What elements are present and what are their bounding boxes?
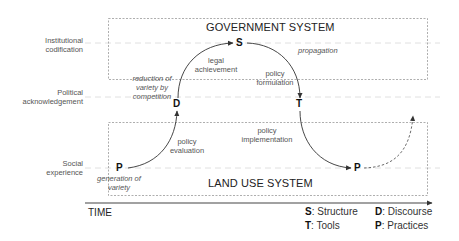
label-line: policy: [253, 69, 297, 78]
level-label-political: Political acknowledgement: [8, 88, 83, 106]
annotation-propagation: propagation: [298, 46, 338, 55]
level-label-line: Social: [10, 159, 83, 168]
legend-key: P: [375, 220, 382, 231]
legend-item-tools: T: Tools: [305, 220, 340, 231]
level-label-line: experience: [10, 168, 83, 177]
time-axis-label: TIME: [88, 207, 112, 218]
node-structure: S: [236, 37, 243, 48]
level-label-line: codification: [10, 45, 83, 54]
label-line: policy: [240, 126, 294, 135]
government-system-title: GOVERNMENT SYSTEM: [206, 21, 335, 33]
legend-text: : Tools: [311, 220, 340, 231]
level-label-line: Political: [8, 88, 83, 97]
label-line: policy: [163, 137, 211, 146]
label-line: formulation: [253, 78, 297, 87]
level-label-line: Institutional: [10, 36, 83, 45]
arrow-t-to-p: [300, 111, 351, 168]
legend-key: S: [305, 206, 312, 217]
label-line: evaluation: [163, 146, 211, 155]
annotation-generation-of-variety: generation of variety: [94, 174, 144, 192]
legend-item-practices: P: Practices: [375, 220, 428, 231]
label-legal-achievement: legal achievement: [192, 56, 240, 74]
label-line: achievement: [192, 65, 240, 74]
level-label-institutional: Institutional codification: [10, 36, 83, 54]
annotation-line: generation of: [94, 174, 144, 183]
annotation-reduction-of-variety: reduction of variety by competition: [128, 74, 176, 101]
annotation-line: variety: [94, 183, 144, 192]
annotation-line: variety by: [128, 83, 176, 92]
level-label-social: Social experience: [10, 159, 83, 177]
label-policy-evaluation: policy evaluation: [163, 137, 211, 155]
label-policy-formulation: policy formulation: [253, 69, 297, 87]
node-tools: T: [296, 98, 302, 109]
label-line: implementation: [240, 135, 294, 144]
arrow-p-dashed-future: [364, 116, 413, 168]
annotation-line: competition: [128, 92, 176, 101]
node-practices-end: P: [354, 162, 361, 173]
annotation-line: reduction of: [128, 74, 176, 83]
legend-text: : Structure: [312, 206, 358, 217]
legend-item-discourse: D: Discourse: [375, 206, 432, 217]
label-line: legal: [192, 56, 240, 65]
level-label-line: acknowledgement: [8, 97, 83, 106]
legend-item-structure: S: Structure: [305, 206, 358, 217]
land-use-system-title: LAND USE SYSTEM: [208, 177, 313, 189]
legend-text: : Practices: [382, 220, 429, 231]
node-practices-start: P: [116, 162, 123, 173]
legend-text: : Discourse: [382, 206, 432, 217]
label-policy-implementation: policy implementation: [240, 126, 294, 144]
